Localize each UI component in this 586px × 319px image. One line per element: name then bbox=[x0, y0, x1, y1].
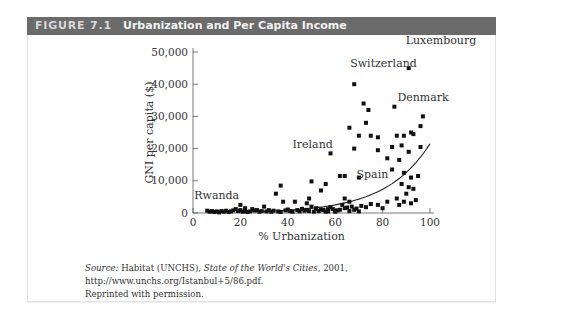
data-point bbox=[329, 151, 333, 155]
data-point bbox=[416, 174, 420, 178]
source-permission: Reprinted with permission. bbox=[85, 289, 204, 299]
data-point bbox=[319, 189, 323, 193]
data-point bbox=[414, 198, 418, 202]
data-point bbox=[402, 134, 406, 138]
x-tick-label: 80 bbox=[376, 216, 389, 228]
data-point bbox=[347, 200, 351, 204]
data-point bbox=[359, 204, 363, 208]
annotation-label: Denmark bbox=[397, 91, 449, 104]
data-point bbox=[307, 197, 311, 201]
data-point bbox=[411, 187, 415, 191]
data-point bbox=[310, 205, 314, 209]
trend-curve bbox=[240, 144, 430, 212]
data-point bbox=[407, 185, 411, 189]
data-point bbox=[421, 114, 425, 118]
data-point bbox=[279, 210, 283, 214]
data-point bbox=[397, 158, 401, 162]
data-point bbox=[407, 150, 411, 154]
data-point bbox=[343, 206, 347, 210]
data-point bbox=[381, 206, 385, 210]
data-point bbox=[352, 82, 356, 86]
data-point bbox=[326, 207, 330, 211]
data-point bbox=[404, 192, 408, 196]
x-axis-title: % Urbanization bbox=[258, 230, 345, 243]
data-point bbox=[376, 135, 380, 139]
annotation-label: Luxembourg bbox=[406, 34, 477, 47]
data-point bbox=[324, 182, 328, 186]
data-point bbox=[338, 174, 342, 178]
data-point bbox=[262, 205, 266, 209]
data-point bbox=[385, 156, 389, 160]
data-point bbox=[392, 105, 396, 109]
data-point bbox=[357, 209, 361, 213]
y-tick-label: 10,000 bbox=[151, 174, 188, 186]
annotations: LuxembourgSwitzerlandDenmarkIrelandSpain… bbox=[194, 34, 476, 202]
data-point bbox=[419, 124, 423, 128]
data-point bbox=[314, 207, 318, 211]
x-tick-label: 20 bbox=[234, 216, 247, 228]
annotation-label: Rwanda bbox=[194, 189, 239, 202]
source-note: Source: Habitat (UNCHS), State of the Wo… bbox=[85, 262, 505, 301]
y-tick-label: 0 bbox=[181, 207, 188, 219]
data-point bbox=[400, 182, 404, 186]
data-point bbox=[343, 174, 347, 178]
data-point bbox=[395, 134, 399, 138]
data-point bbox=[253, 208, 257, 212]
data-point bbox=[248, 209, 252, 213]
data-point bbox=[364, 121, 368, 125]
data-point bbox=[362, 102, 366, 106]
x-tick-label: 60 bbox=[329, 216, 342, 228]
y-tick-label: 50,000 bbox=[151, 46, 188, 58]
data-point bbox=[400, 143, 404, 147]
data-point bbox=[305, 201, 309, 205]
data-point bbox=[366, 108, 370, 112]
data-point bbox=[395, 197, 399, 201]
y-tick-label: 30,000 bbox=[151, 110, 188, 122]
data-point bbox=[347, 126, 351, 130]
data-point bbox=[260, 209, 264, 213]
data-point bbox=[272, 209, 276, 213]
data-point bbox=[333, 210, 337, 214]
data-point bbox=[338, 208, 342, 212]
data-point bbox=[419, 145, 423, 149]
data-point bbox=[281, 200, 285, 204]
y-axis-title: GNI per capita ($) bbox=[143, 82, 156, 184]
data-point bbox=[352, 208, 356, 212]
x-tick-label: 0 bbox=[190, 216, 197, 228]
annotation-label: Spain bbox=[357, 168, 389, 181]
data-point bbox=[357, 134, 361, 138]
data-point bbox=[347, 209, 351, 213]
x-tick-label: 100 bbox=[420, 216, 440, 228]
data-point bbox=[409, 176, 413, 180]
data-point bbox=[293, 200, 297, 204]
x-tick-label: 40 bbox=[281, 216, 294, 228]
data-point bbox=[369, 134, 373, 138]
data-point bbox=[390, 145, 394, 149]
data-point bbox=[376, 203, 380, 207]
data-point bbox=[390, 168, 394, 172]
data-point bbox=[274, 192, 278, 196]
data-point bbox=[307, 209, 311, 213]
data-point bbox=[409, 201, 413, 205]
data-point bbox=[364, 205, 368, 209]
annotation-label: Switzerland bbox=[350, 57, 417, 70]
data-point bbox=[385, 200, 389, 204]
data-point bbox=[291, 210, 295, 214]
source-prefix: Source: bbox=[85, 263, 119, 273]
data-point bbox=[402, 200, 406, 204]
data-point bbox=[352, 147, 356, 151]
data-point bbox=[279, 184, 283, 188]
y-tick-label: 20,000 bbox=[151, 142, 188, 154]
data-point bbox=[369, 202, 373, 206]
y-tick-label: 40,000 bbox=[151, 78, 188, 90]
data-point bbox=[343, 197, 347, 201]
source-publication: State of the World's Cities, bbox=[204, 263, 321, 273]
data-point bbox=[397, 203, 401, 207]
data-point bbox=[376, 148, 380, 152]
data-point bbox=[402, 171, 406, 175]
data-point bbox=[238, 203, 242, 207]
data-point bbox=[411, 132, 415, 136]
data-point bbox=[321, 208, 325, 212]
trend-line bbox=[240, 144, 430, 212]
data-point bbox=[310, 179, 314, 183]
